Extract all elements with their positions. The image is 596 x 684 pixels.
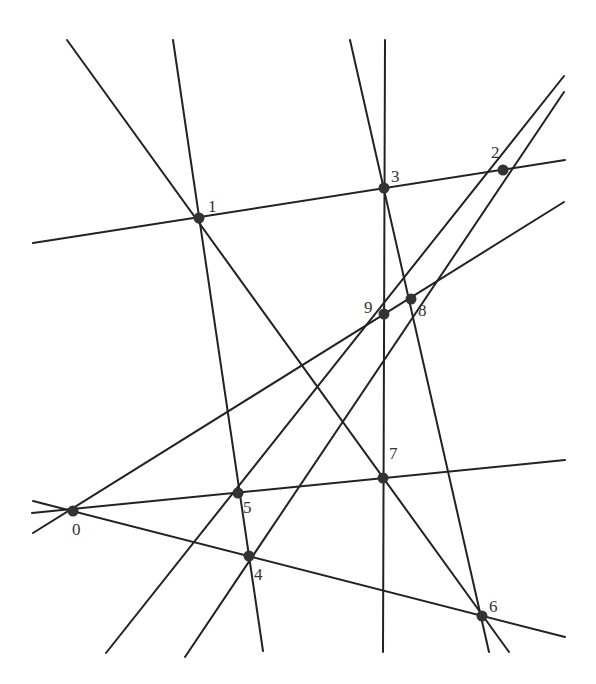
point-5 bbox=[233, 488, 244, 499]
line-1-3-2 bbox=[33, 160, 565, 243]
line-1-7-6 bbox=[67, 40, 509, 652]
point-9 bbox=[379, 309, 390, 320]
line-2-8-4 bbox=[185, 92, 564, 657]
point-label-5: 5 bbox=[243, 498, 252, 517]
point-line-diagram: 0123456789 bbox=[0, 0, 596, 684]
point-4 bbox=[244, 551, 255, 562]
line-3-9-7 bbox=[383, 40, 385, 652]
line-2-9-5 bbox=[106, 76, 564, 653]
point-label-9: 9 bbox=[364, 298, 373, 317]
points-group bbox=[68, 165, 509, 622]
point-7 bbox=[378, 473, 389, 484]
labels-group: 0123456789 bbox=[72, 143, 500, 616]
point-0 bbox=[68, 506, 79, 517]
line-8-9-0 bbox=[33, 202, 564, 533]
diagram-canvas: 0123456789 bbox=[0, 0, 596, 684]
point-2 bbox=[498, 165, 509, 176]
point-label-4: 4 bbox=[254, 565, 263, 584]
point-label-8: 8 bbox=[418, 301, 427, 320]
point-8 bbox=[406, 294, 417, 305]
lines-group bbox=[32, 40, 565, 657]
point-3 bbox=[379, 183, 390, 194]
point-label-0: 0 bbox=[72, 520, 81, 539]
line-0-5-7 bbox=[32, 460, 565, 513]
point-label-2: 2 bbox=[491, 143, 500, 162]
point-label-3: 3 bbox=[391, 167, 400, 186]
point-label-7: 7 bbox=[389, 444, 398, 463]
point-1 bbox=[194, 213, 205, 224]
point-6 bbox=[477, 611, 488, 622]
line-3-8-6 bbox=[350, 40, 489, 652]
point-label-1: 1 bbox=[208, 197, 217, 216]
point-label-6: 6 bbox=[489, 597, 498, 616]
